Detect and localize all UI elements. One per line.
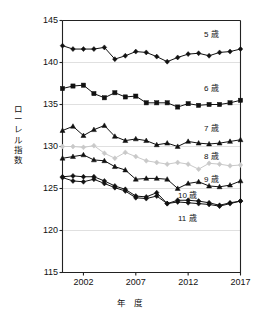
data-point-marker [196,179,201,184]
data-point-marker [112,164,117,169]
data-point-marker [133,136,138,141]
y-tick-label: 135 [28,99,58,109]
data-point-marker [92,47,97,52]
data-point-marker [81,145,86,150]
x-tick-label: 2007 [116,277,156,287]
data-point-marker [71,84,75,88]
x-tick-label: 2017 [221,277,261,287]
data-point-marker [133,154,138,159]
data-point-marker [92,91,96,95]
data-point-marker [228,101,232,105]
data-point-marker [60,144,65,149]
data-point-marker [71,173,76,178]
data-point-marker [238,98,242,102]
x-axis-title: 年 度 [0,296,263,308]
series-label-10歳: 10 歳 [178,189,197,200]
x-tick-label: 2012 [168,277,208,287]
data-point-marker [144,101,148,105]
data-point-marker [238,137,243,142]
y-tick-label: 140 [28,57,58,67]
y-tick-label: 115 [28,267,58,277]
data-point-marker [217,162,222,167]
x-tick-label: 2002 [63,277,103,287]
data-point-marker [102,123,107,128]
chart-figure: ロ ー レ ル 指 数 年 度 145140135130125120115200… [0,0,263,319]
data-point-marker [186,102,190,106]
data-point-marker [81,47,86,52]
data-point-marker [176,105,180,109]
data-point-marker [196,167,201,172]
data-point-marker [165,162,170,167]
data-point-marker [123,53,128,58]
data-point-marker [81,83,85,87]
data-point-marker [60,43,65,48]
series-label-6歳: 6 歳 [204,82,219,93]
data-point-marker [207,102,211,106]
data-point-marker [134,94,138,98]
data-point-marker [228,49,233,54]
data-point-marker [165,59,170,64]
data-point-marker [71,144,76,149]
data-point-marker [71,47,76,52]
data-point-marker [238,162,243,167]
data-point-marker [71,178,76,183]
data-point-marker [113,156,118,161]
series-label-7歳: 7 歳 [204,122,219,133]
data-point-marker [228,163,233,168]
y-tick-label: 125 [28,183,58,193]
data-point-marker [60,86,64,90]
data-point-marker [102,96,106,100]
data-point-marker [165,141,170,146]
data-point-marker [217,102,221,106]
data-point-marker [144,158,149,163]
data-point-marker [197,103,201,107]
data-point-marker [196,51,201,56]
data-point-marker [81,179,86,184]
data-point-marker [238,178,243,183]
y-tick-label: 130 [28,141,58,151]
data-point-marker [186,139,191,144]
y-tick-label: 145 [28,15,58,25]
data-point-marker [154,160,159,165]
data-point-marker [123,95,127,99]
data-point-marker [207,53,212,58]
data-point-marker [207,161,212,166]
data-point-marker [217,50,222,55]
data-point-marker [123,150,128,155]
data-point-marker [133,49,138,54]
data-point-marker [175,160,180,165]
data-point-marker [155,101,159,105]
data-point-marker [186,52,191,57]
series-line [63,46,241,62]
series-label-9歳: 9 歳 [204,173,219,184]
data-point-marker [154,54,159,59]
data-point-marker [70,124,75,129]
series-label-8歳: 8 歳 [204,150,219,161]
data-point-marker [186,162,191,167]
data-point-marker [81,174,86,179]
series-label-11歳: 11 歳 [178,212,197,223]
series-label-5歳: 5 歳 [204,28,219,39]
data-point-marker [113,91,117,95]
data-point-marker [81,152,86,157]
y-tick-label: 120 [28,225,58,235]
data-point-marker [165,101,169,105]
data-point-marker [144,50,149,55]
series-5歳 [60,43,243,64]
data-point-marker [238,199,243,204]
data-point-marker [238,47,243,52]
data-point-marker [175,55,180,60]
